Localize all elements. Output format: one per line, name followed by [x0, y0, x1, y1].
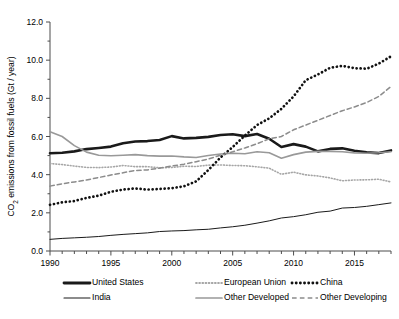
legend-label-other-developing: Other Developing: [320, 292, 387, 302]
x-tick-label: 2010: [284, 258, 303, 268]
y-tick-label: 8.0: [31, 93, 43, 103]
chart-figure: 0.02.04.06.08.010.012.019901995200020052…: [0, 0, 399, 319]
series-line-european-union: [50, 164, 391, 182]
x-tick-label: 2000: [162, 258, 181, 268]
x-tick-label: 2015: [345, 258, 364, 268]
legend-label-china: China: [320, 277, 343, 287]
y-axis-title: CO2 emissions from fossil fuels (Gt / ye…: [6, 56, 19, 216]
series-line-china: [50, 56, 391, 204]
series-line-other-developing: [50, 87, 391, 187]
series-line-india: [50, 203, 391, 239]
y-tick-label: 12.0: [26, 17, 43, 27]
series-line-united-states: [50, 134, 391, 153]
legend-label-united-states: United States: [92, 277, 144, 287]
emissions-line-chart: 0.02.04.06.08.010.012.019901995200020052…: [0, 0, 399, 319]
y-tick-label: 0.0: [31, 246, 43, 256]
axis-lines: [50, 22, 391, 251]
y-tick-label: 2.0: [31, 208, 43, 218]
legend-label-other-developed: Other Developed: [224, 292, 289, 302]
x-tick-label: 2005: [223, 258, 242, 268]
legend-label-india: India: [92, 292, 111, 302]
x-tick-label: 1995: [101, 258, 120, 268]
legend-label-european-union: European Union: [224, 277, 286, 287]
x-tick-label: 1990: [41, 258, 60, 268]
y-tick-label: 6.0: [31, 132, 43, 142]
y-tick-label: 4.0: [31, 170, 43, 180]
y-tick-label: 10.0: [26, 55, 43, 65]
